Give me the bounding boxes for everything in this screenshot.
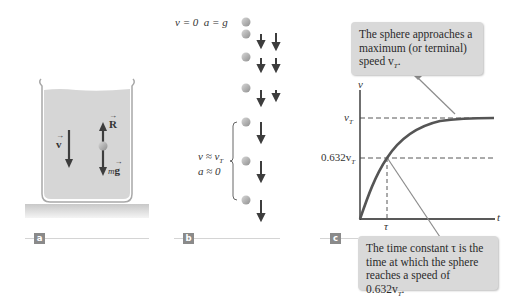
y-axis-label: v [358, 78, 363, 90]
tick-vT: vT [344, 111, 353, 126]
callout-top-line-2: maximum (or terminal) [359, 42, 475, 56]
tick-tau: τ [384, 220, 388, 232]
time-constant-callout: The time constant τ is the time at which… [358, 236, 498, 290]
callout-top-line-1: The sphere approaches a [359, 28, 475, 42]
panel-label-c: c [330, 233, 341, 244]
callout-top-line-3: speed vT. [359, 55, 475, 74]
top-callout-pointer [418, 78, 455, 114]
terminal-speed-callout: The sphere approaches a maximum (or term… [351, 22, 483, 75]
callout-bottom-line-1: The time constant τ is the [366, 242, 490, 256]
bottom-callout-pointer [388, 159, 440, 237]
callout-bottom-line-2: time at which the sphere [366, 256, 490, 270]
velocity-curve [360, 118, 494, 219]
tick-0632vT: 0.632vT [321, 151, 355, 166]
callout-bottom-line-3: reaches a speed of 0.632vT. [366, 269, 490, 301]
x-axis-label: t [497, 211, 500, 223]
